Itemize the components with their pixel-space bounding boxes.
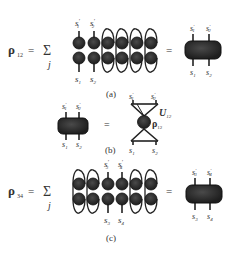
tensor-network-figure: ρ 12 = Σ j — [0, 0, 233, 255]
rhs-label-s1: s1 — [190, 68, 196, 78]
sum-symbol: Σ — [43, 43, 51, 58]
rhs-label-s3: s3 — [192, 212, 198, 222]
label-s3: s3 — [104, 215, 111, 226]
label-s2: s2 — [76, 140, 82, 150]
rhs-label-s1-prime: s′1 — [190, 24, 195, 33]
rho12-block — [58, 118, 88, 134]
trace-loops — [73, 170, 157, 213]
label-s1-prime: s′1 — [75, 18, 81, 29]
label-s2-prime: s′2 — [76, 102, 81, 111]
rhs-label-s4-prime: s′4 — [207, 168, 212, 177]
rho-subscript: 12 — [17, 52, 23, 58]
label-u12: U12 — [159, 107, 172, 119]
rho-subscript: 34 — [17, 193, 23, 199]
label-s1: s1 — [62, 140, 68, 150]
label-s3-prime: s′3 — [104, 159, 110, 170]
sum-index: j — [46, 59, 51, 70]
rhs-label-s2: s2 — [206, 68, 212, 78]
label-s1-prime: s′1 — [129, 92, 134, 101]
equals-sign: = — [166, 44, 172, 56]
label-rho12: ρ12 — [152, 118, 163, 130]
rhs-label-s4: s4 — [207, 212, 213, 222]
label-s2-prime: s′2 — [151, 92, 156, 101]
equals-sign: = — [104, 119, 110, 130]
equals-sign: = — [166, 185, 172, 197]
label-s4: s4 — [118, 215, 125, 226]
label-s2-prime: s′2 — [90, 18, 96, 29]
sum-symbol: Σ — [43, 184, 51, 199]
rho-symbol: ρ — [8, 183, 15, 198]
rhs-label-s3-prime: s′3 — [192, 168, 197, 177]
equals-sign: = — [28, 44, 34, 56]
label-s1: s1 — [75, 74, 81, 85]
trace-loops — [102, 29, 157, 72]
sum-index: j — [46, 200, 51, 211]
label-s1: s1 — [129, 146, 135, 156]
panel-a: ρ 12 = Σ j — [8, 18, 221, 99]
rhs-label-s2-prime: s′2 — [206, 24, 211, 33]
label-s1-prime: s′1 — [62, 102, 67, 111]
rho12-block — [185, 41, 221, 59]
caption-c: (c) — [106, 233, 116, 243]
rho-symbol: ρ — [8, 42, 15, 57]
label-s2: s2 — [90, 74, 97, 85]
panel-b: s′1 s′2 s1 s2 = s′1 s′2 U12 ρ12 s1 s2 (b… — [58, 92, 172, 156]
equals-sign: = — [28, 185, 34, 197]
caption-a: (a) — [106, 89, 116, 99]
rho34-block — [186, 185, 222, 203]
label-s4-prime: s′4 — [118, 159, 124, 170]
caption-b: (b) — [105, 145, 116, 155]
rho12-node — [138, 116, 151, 129]
panel-c: ρ 34 = Σ j — [8, 159, 222, 243]
label-s2: s2 — [152, 146, 158, 156]
